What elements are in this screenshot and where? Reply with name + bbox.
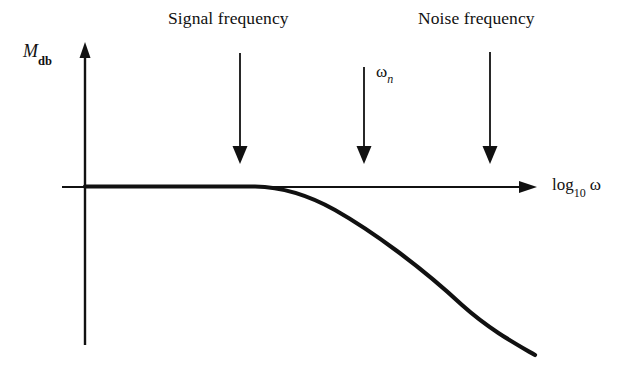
signal-frequency-label: Signal frequency	[168, 10, 289, 28]
y-axis-label-subscript: db	[38, 54, 52, 68]
omega-n-subscript: n	[387, 72, 393, 86]
x-axis-label-omega: ω	[590, 175, 601, 194]
omega-n-arrow	[357, 67, 372, 164]
omega-n-label: ωn	[376, 63, 393, 83]
x-axis-label: log10ω	[552, 176, 601, 196]
noise-frequency-label: Noise frequency	[418, 10, 535, 28]
y-axis-label: Mdb	[23, 42, 52, 64]
magnitude-response-curve	[85, 187, 535, 356]
y-axis-arrowhead	[80, 42, 91, 58]
noise-frequency-arrow	[483, 52, 498, 164]
x-axis-label-prefix: log	[552, 175, 574, 194]
signal-frequency-arrow	[233, 53, 248, 164]
figure-canvas	[0, 0, 631, 367]
x-axis-label-subscript: 10	[574, 186, 586, 200]
x-axis-arrowhead	[519, 181, 537, 193]
bode-plot-figure: Signal frequency Noise frequency ωn Mdb …	[0, 0, 631, 367]
omega-n-symbol: ω	[376, 62, 387, 81]
y-axis-label-main: M	[23, 41, 38, 61]
